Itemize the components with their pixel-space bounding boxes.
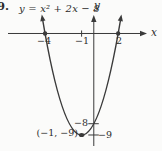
y-tick-label-neg9: −9 <box>98 130 112 140</box>
equation-label: y = x² + 2x − 8 <box>19 4 100 14</box>
y-axis-arrow-icon <box>91 15 96 22</box>
parabola-plot-canvas <box>0 0 162 151</box>
x-axis-label: x <box>151 27 157 38</box>
y-axis-label: y <box>94 0 100 11</box>
x-tick-label-neg1: −1 <box>75 36 89 46</box>
exercise-number: 9. <box>0 1 9 13</box>
curve-arrow-icon <box>40 15 45 22</box>
vertex-point-label: (−1, −9) <box>37 128 78 138</box>
parabola-figure: 9. y = x² + 2x − 8 y x −4 −1 2 −8 −9 (−1… <box>0 0 162 151</box>
x-tick-label-neg4: −4 <box>37 36 51 46</box>
vertex-dot <box>79 133 85 137</box>
curve-arrow-icon <box>118 15 123 22</box>
x-axis-arrow-icon <box>140 31 147 36</box>
x-tick-label-pos2: 2 <box>116 36 122 46</box>
